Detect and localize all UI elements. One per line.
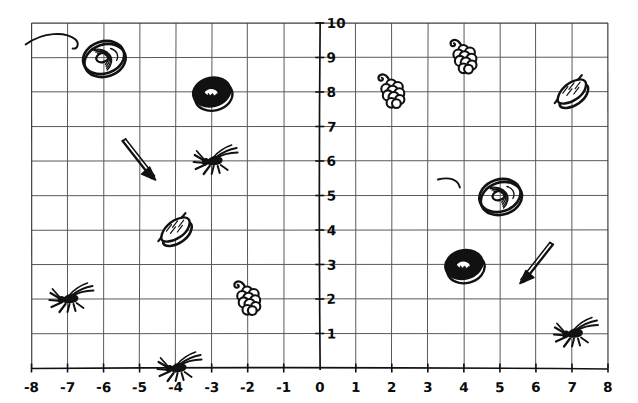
worksheet-canvas: -8-7-6-5-4-3-2-1012345678 012345678910 (0, 0, 638, 403)
x-axis-tick-label: 1 (351, 379, 361, 395)
x-axis-tick-label: -2 (239, 379, 255, 396)
plot-object-grapes (378, 74, 404, 108)
grape-berry (464, 65, 473, 74)
plot-object-lemon (549, 75, 592, 110)
y-axis-tick-label: 8 (326, 84, 336, 100)
bug-leg (77, 303, 84, 308)
x-axis-tick-label: 5 (495, 379, 505, 395)
plot-object-donut-ring (438, 174, 526, 220)
y-axis-tick-label: 4 (327, 222, 337, 238)
flourish-stroke (26, 34, 78, 49)
x-axis-tick-label: 2 (387, 379, 397, 395)
plot-object-donut-dark (442, 246, 488, 287)
coordinate-grid-figure: -8-7-6-5-4-3-2-1012345678 012345678910 (0, 0, 638, 403)
x-axis-tick-label: -3 (204, 379, 219, 395)
x-axis-tick-label: -6 (96, 379, 111, 395)
arrow-tail-cap (123, 139, 126, 141)
bug-leg (60, 304, 66, 312)
bug-leg (221, 165, 228, 170)
bug-leg (74, 304, 76, 311)
plot-object-bug (194, 145, 238, 174)
plot-object-grapes (451, 40, 477, 74)
x-axis-tick-label: 8 (603, 379, 613, 395)
bug-leg (185, 372, 192, 377)
bug-leg (160, 371, 171, 376)
y-axis-tick-label: 9 (326, 49, 336, 65)
plot-object-lemon (153, 213, 196, 248)
plot-object-arrow (123, 139, 156, 180)
x-axis-tick-label: -7 (60, 379, 75, 395)
grape-berry (248, 306, 257, 315)
y-axis-tick-label: 7 (327, 119, 337, 135)
x-axis-tick-label: 7 (567, 379, 577, 395)
y-axis-tick-label: 6 (326, 153, 336, 169)
x-axis-tick-label: -1 (276, 379, 291, 395)
bug-leg (158, 369, 170, 370)
bug-leg (564, 339, 570, 347)
plot-object-bug (554, 318, 598, 347)
bug-leg (581, 338, 588, 343)
bug-leg (52, 302, 63, 307)
plot-object-bug (50, 283, 94, 312)
bug-leg (556, 337, 567, 342)
bug-leg (578, 339, 580, 346)
plot-object-grapes (234, 281, 260, 315)
bug-leg (196, 164, 207, 169)
bug-leg (554, 335, 566, 336)
x-axis-tick-label: -8 (24, 379, 39, 395)
grape-berry (392, 99, 401, 108)
plot-object-arrow (520, 243, 553, 284)
y-axis-tick-label: 3 (327, 257, 337, 273)
arrow-tail-cap (550, 243, 553, 245)
x-axis-tick-label: -5 (132, 379, 148, 395)
bug-leg (194, 162, 206, 163)
plot-object-donut-dark (190, 73, 236, 114)
plotted-doodle-objects (26, 34, 598, 381)
x-axis-tick-label: 4 (459, 379, 468, 395)
x-axis-tick-label: 3 (423, 379, 433, 395)
y-axis-tick-label: 10 (327, 15, 346, 31)
y-axis-tick-label: 5 (327, 187, 337, 203)
y-axis-tick-label: 2 (326, 290, 336, 307)
plot-object-bug (158, 352, 202, 381)
y-axis-tick-label: 1 (327, 326, 337, 342)
bug-leg (50, 300, 62, 301)
flourish-stroke (438, 178, 460, 187)
x-axis-tick-label: 6 (531, 379, 541, 395)
bug-leg (204, 166, 210, 174)
bug-leg (218, 166, 220, 173)
